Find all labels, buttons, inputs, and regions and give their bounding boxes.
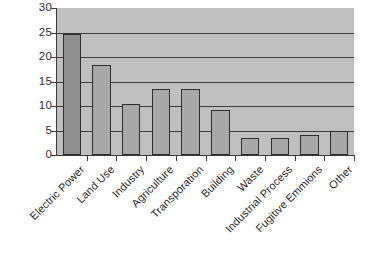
x-axis-tick-mark bbox=[235, 155, 236, 161]
x-axis-tick-mark bbox=[87, 155, 88, 161]
y-axis-tick-label: 0 bbox=[26, 149, 52, 161]
bar bbox=[300, 135, 318, 155]
bar bbox=[181, 89, 199, 155]
bar bbox=[211, 110, 229, 155]
x-axis-tick-mark bbox=[176, 155, 177, 161]
y-axis-tick-label: 25 bbox=[26, 27, 52, 39]
bar bbox=[152, 89, 170, 155]
plot-area bbox=[57, 8, 354, 155]
bar bbox=[122, 104, 140, 155]
y-axis-tick-labels: 051015202530 bbox=[26, 8, 52, 153]
y-axis-tick-label: 10 bbox=[26, 100, 52, 112]
x-axis-tick-label-text: Other bbox=[326, 163, 354, 191]
x-axis-tick-mark bbox=[354, 155, 355, 161]
x-axis-tick-label-text: Building bbox=[199, 163, 236, 200]
x-axis-tick-mark bbox=[146, 155, 147, 161]
bars-series bbox=[57, 8, 354, 155]
bar-chart: 051015202530 Electric PowerLand UseIndus… bbox=[0, 0, 370, 278]
y-axis-tick-label: 30 bbox=[26, 2, 52, 14]
x-axis-tick-mark bbox=[116, 155, 117, 161]
bar bbox=[92, 65, 110, 155]
x-axis-tick-mark bbox=[265, 155, 266, 161]
x-axis-tick-labels: Electric PowerLand UseIndustryAgricultur… bbox=[0, 163, 370, 275]
y-axis-tick-label: 15 bbox=[26, 76, 52, 88]
bar bbox=[63, 34, 81, 155]
y-axis-tick-label: 5 bbox=[26, 125, 52, 137]
bar bbox=[241, 138, 259, 155]
bar bbox=[271, 138, 289, 155]
y-axis-tick-label: 20 bbox=[26, 51, 52, 63]
x-axis-tick-mark bbox=[206, 155, 207, 161]
x-axis-tick-label: Building bbox=[199, 163, 236, 200]
x-axis-tick-mark bbox=[324, 155, 325, 161]
bar bbox=[330, 131, 348, 156]
x-axis-tick-mark bbox=[295, 155, 296, 161]
x-axis-tick-label: Other bbox=[326, 163, 354, 191]
